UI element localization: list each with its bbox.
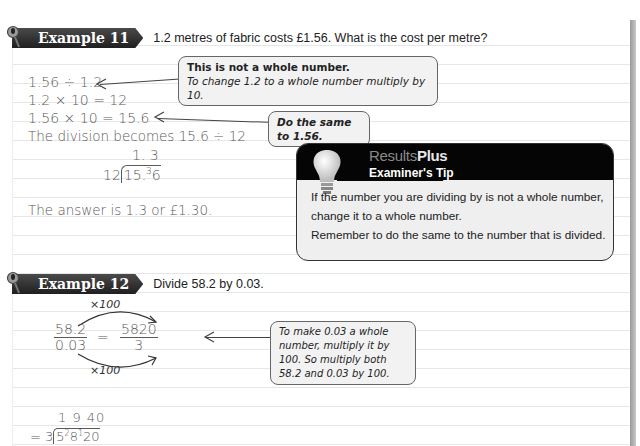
equals-sign: = <box>97 329 109 345</box>
resultsplus-logo: ResultsPlus <box>369 147 447 164</box>
dividend-main: 15. <box>124 167 146 183</box>
tip-line: Remember to do the same to the number th… <box>311 226 607 245</box>
numerator: 5820 <box>120 322 158 338</box>
long-division: 1215.36 <box>103 165 161 183</box>
callout-line: To change 1.2 to a whole number multiply… <box>187 74 429 102</box>
arrow-line <box>205 337 273 338</box>
example-11-tag: Example 11 <box>12 28 143 48</box>
magnifier-key-icon <box>6 25 22 49</box>
digit: 8 <box>70 429 78 444</box>
arrow-head-icon <box>95 78 107 90</box>
example-12-question: Divide 58.2 by 0.03. <box>153 277 264 291</box>
digit: 5 <box>56 429 64 444</box>
example-12-header: Example 12 Divide 58.2 by 0.03. <box>4 273 264 295</box>
tip-title: Examiner's Tip <box>369 166 454 180</box>
example-12-tag: Example 12 <box>12 274 143 294</box>
answer-text: The answer is 1.3 or £1.30. <box>28 202 212 218</box>
callout-line: number, multiply it by <box>279 339 407 353</box>
callout-line: This is not a whole number. <box>187 60 429 74</box>
step-3: 1.56 × 10 = 15.6 <box>28 110 149 126</box>
fraction-left: 58.2 0.03 <box>54 322 87 353</box>
tip-line: If the number you are dividing by is not… <box>311 188 607 207</box>
digit: 20 <box>83 429 100 444</box>
callout-make-whole: To make 0.03 a whole number, multiply it… <box>270 321 416 385</box>
arrow-head-icon <box>203 331 215 343</box>
brand-bold: Plus <box>417 147 447 164</box>
example-11-header: Example 11 1.2 metres of fabric costs £1… <box>4 27 487 49</box>
multiplier-bottom: ×100 <box>90 364 120 377</box>
examiners-tip-box: ResultsPlus Examiner's Tip If the number… <box>296 143 614 261</box>
denominator: 3 <box>120 338 158 353</box>
step-4: The division becomes 15.6 ÷ 12 <box>28 128 246 144</box>
callout-not-whole-number: This is not a whole number. To change 1.… <box>178 56 438 106</box>
callout-line: 100. So multiply both <box>279 353 407 367</box>
tip-body: If the number you are dividing by is not… <box>311 188 607 245</box>
denominator: 0.03 <box>54 338 87 353</box>
fraction-right: 5820 3 <box>120 322 158 353</box>
page-edge-shadow <box>630 20 636 446</box>
margin-line <box>12 27 13 446</box>
tip-line: change it to a whole number. <box>311 207 607 226</box>
brand-light: Results <box>369 147 417 164</box>
callout-do-same: Do the same to 1.56. <box>268 111 370 147</box>
arrow-head-icon <box>153 111 165 123</box>
step-1: 1.56 ÷ 1.2 <box>28 74 102 90</box>
example-11-question: 1.2 metres of fabric costs £1.56. What i… <box>153 31 487 45</box>
step-2: 1.2 × 10 = 12 <box>28 92 127 108</box>
numerator: 58.2 <box>54 322 87 338</box>
magnifier-key-icon <box>6 271 22 295</box>
divisor: 12 <box>103 167 121 183</box>
callout-line: To make 0.03 a whole <box>279 325 407 339</box>
textbook-page: Example 11 1.2 metres of fabric costs £1… <box>0 0 640 446</box>
dividend-last: 6 <box>152 167 161 183</box>
short-division: = 3528120 <box>30 428 100 444</box>
callout-line: 58.2 and 0.03 by 100. <box>279 367 407 381</box>
short-division-quotient: 1 9 40 <box>58 410 105 425</box>
divisor: = 3 <box>30 429 53 444</box>
long-division-quotient: 1. 3 <box>132 147 159 163</box>
